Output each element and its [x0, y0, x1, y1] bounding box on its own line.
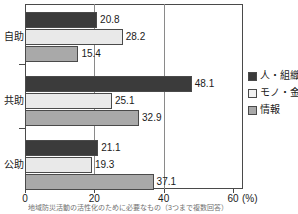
bar-value-label: 37.1	[157, 177, 176, 187]
bar	[25, 46, 78, 62]
bar-value-label: 48.1	[195, 79, 214, 89]
legend: 人・組織 モノ・金 情報	[248, 69, 298, 120]
bar-chart: 20.828.215.448.125.132.921.119.337.1 自助 …	[0, 0, 298, 214]
bar-value-label: 20.8	[100, 15, 119, 25]
legend-item-goods-money: モノ・金	[248, 86, 298, 100]
bar	[25, 76, 192, 92]
legend-label: 人・組織	[260, 71, 298, 81]
chart-caption: 地域防災活動の活性化のために必要なもの（3つまで複数回答）	[28, 204, 296, 212]
category-label-kyojo: 共助	[0, 96, 24, 106]
bar-value-label: 28.2	[126, 32, 145, 42]
x-tick-label-0: 0	[22, 194, 28, 204]
x-tick-label-20: 20	[89, 194, 100, 204]
category-tick	[19, 64, 26, 65]
bar	[25, 29, 123, 45]
bar	[25, 110, 139, 126]
legend-item-information: 情報	[248, 103, 298, 117]
x-axis-unit-label: (%)	[242, 194, 258, 204]
category-tick	[19, 128, 26, 129]
gridline	[164, 4, 165, 189]
bar	[25, 12, 97, 28]
bar-value-label: 25.1	[115, 96, 134, 106]
legend-swatch-icon	[248, 89, 257, 98]
legend-label: モノ・金	[260, 88, 298, 98]
legend-swatch-icon	[248, 72, 257, 81]
bar	[25, 140, 98, 156]
bar-value-label: 32.9	[142, 113, 161, 123]
legend-label: 情報	[260, 105, 280, 115]
bar-value-label: 19.3	[95, 160, 114, 170]
bar-value-label: 15.4	[81, 49, 100, 59]
category-label-kojo: 公助	[0, 160, 24, 170]
bar	[25, 174, 154, 190]
legend-item-people-org: 人・組織	[248, 69, 298, 83]
legend-swatch-icon	[248, 106, 257, 115]
bar	[25, 93, 112, 109]
category-label-jijo: 自助	[0, 32, 24, 42]
x-tick-label-60: 60	[227, 194, 238, 204]
bar	[25, 157, 92, 173]
x-tick-label-40: 40	[158, 194, 169, 204]
bar-value-label: 21.1	[101, 143, 120, 153]
